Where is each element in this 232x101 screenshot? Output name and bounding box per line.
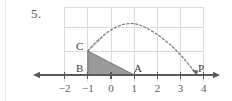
axis-tick-label-2: 2 <box>149 82 165 94</box>
point-label-P: P <box>198 62 204 74</box>
axis-tick-label-4: 4 <box>196 82 212 94</box>
coordinate-figure: −2 −1 0 1 2 3 4 C B A P <box>0 0 232 101</box>
tangent-ray-at-C <box>88 37 103 51</box>
point-label-A: A <box>134 62 142 74</box>
figure-page: 5. <box>0 0 232 101</box>
point-label-B: B <box>76 62 83 74</box>
axis-tick-label-1: 1 <box>126 82 142 94</box>
point-label-C: C <box>76 40 83 52</box>
axis-tick-label-3: 3 <box>173 82 189 94</box>
axis-tick-label--2: −2 <box>57 82 73 94</box>
axis-tick-label--1: −1 <box>80 82 96 94</box>
axis-tick-label-0: 0 <box>103 82 119 94</box>
